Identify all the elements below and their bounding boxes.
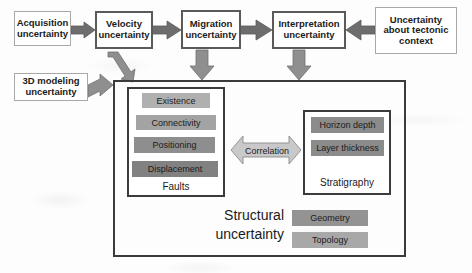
node-tectonic-context-uncertainty[interactable]: Uncertainty about tectonic context [375, 7, 457, 54]
chip-positioning[interactable]: Positioning [134, 137, 215, 153]
caption-structural-uncertainty-line2: uncertainty [166, 226, 284, 242]
chip-connectivity[interactable]: Connectivity [136, 115, 216, 130]
arrow-migration-to-interpretation [240, 20, 272, 40]
arrow-velocity-down [108, 52, 135, 82]
node-migration-uncertainty[interactable]: Migration uncertainty [181, 10, 241, 49]
chip-layer-thickness[interactable]: Layer thickness [311, 140, 384, 156]
arrow-velocity-to-migration [152, 21, 181, 39]
caption-faults: Faults [127, 181, 225, 192]
arrow-3d-modeling-into-panel [88, 74, 113, 97]
diagram-canvas: Acquisition uncertainty Velocity uncerta… [0, 0, 472, 273]
label-correlation: Correlation [238, 143, 296, 158]
chip-horizon-depth[interactable]: Horizon depth [311, 117, 384, 133]
node-3d-modeling-uncertainty[interactable]: 3D modeling uncertainty [14, 73, 88, 101]
chip-topology[interactable]: Topology [292, 232, 368, 248]
chip-displacement[interactable]: Displacement [132, 161, 218, 177]
arrow-interpretation-down [287, 50, 311, 80]
node-interpretation-uncertainty[interactable]: Interpretation uncertainty [272, 11, 346, 49]
caption-stratigraphy: Stratigraphy [303, 177, 391, 188]
caption-structural-uncertainty-line1: Structural [178, 207, 284, 223]
chip-geometry[interactable]: Geometry [292, 210, 368, 226]
arrow-migration-down [190, 50, 214, 80]
node-velocity-uncertainty[interactable]: Velocity uncertainty [95, 11, 153, 49]
arrow-acquisition-to-velocity [71, 22, 95, 38]
node-acquisition-uncertainty[interactable]: Acquisition uncertainty [14, 11, 71, 46]
chip-existence[interactable]: Existence [142, 93, 210, 108]
arrow-tectonic-to-interpretation [346, 20, 375, 40]
